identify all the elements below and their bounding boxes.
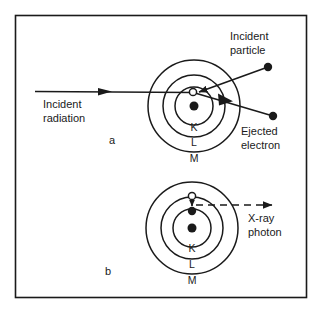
shell-label-m-b: M (188, 274, 197, 286)
incident-particle-dot (264, 63, 272, 71)
incident-radiation-arrowhead (98, 88, 112, 95)
ejected-electron-label: Ejected electron (241, 125, 281, 151)
incident-radiation-label-line1: Incident (43, 98, 82, 110)
x-ray-photon-label-line2: photon (248, 226, 282, 238)
nucleus-dot-a (190, 102, 199, 111)
incident-radiation-label: Incident radiation (43, 98, 85, 124)
electron-landing-dot-b (188, 207, 196, 215)
shell-label-l-a: L (191, 136, 197, 148)
ejected-electron-label-line1: Ejected (241, 125, 278, 137)
electron-vacancy-a (189, 88, 196, 95)
panel-label-a: a (109, 134, 116, 146)
incident-radiation-label-line2: radiation (43, 112, 85, 124)
incident-particle-label-line1: Incident (230, 30, 269, 42)
atom-ionization-diagram: K L M Incident radiation Incident partic… (0, 0, 325, 313)
panel-a: K L M Incident radiation Incident partic… (35, 30, 281, 164)
shell-label-k-b: K (188, 242, 195, 254)
x-ray-photon-label-line1: X-ray (248, 212, 275, 224)
panel-b: K L M X-ray photon b (105, 182, 282, 286)
panel-label-b: b (105, 265, 111, 277)
ejected-electron-label-line2: electron (241, 139, 280, 151)
incident-radiation-ray (35, 92, 193, 93)
ejected-electron-path (195, 93, 273, 116)
incident-particle-label-line2: particle (230, 44, 265, 56)
x-ray-photon-label: X-ray photon (248, 212, 282, 238)
shell-label-m-a: M (190, 152, 199, 164)
incident-particle-label: Incident particle (230, 30, 272, 56)
nucleus-dot-b (188, 224, 197, 233)
electron-vacancy-b (188, 192, 195, 199)
ejected-electron-dot (269, 112, 277, 120)
figure-border (16, 16, 307, 298)
figure-container: K L M Incident radiation Incident partic… (0, 0, 325, 313)
shell-label-k-a: K (190, 121, 197, 133)
shell-label-l-b: L (189, 258, 195, 270)
